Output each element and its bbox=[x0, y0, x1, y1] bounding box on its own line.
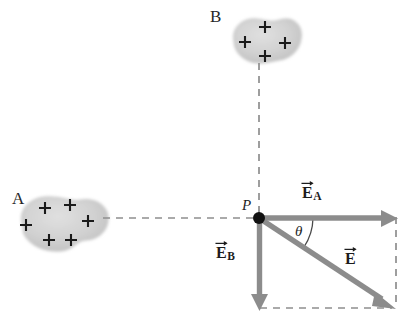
vector-e-resultant-label: E bbox=[345, 251, 356, 269]
vector-e-a-arrow bbox=[259, 210, 398, 227]
point-p-label: P bbox=[242, 198, 251, 213]
vector-e-b-arrow bbox=[251, 218, 268, 311]
electric-field-diagram: A B P E A E B E bbox=[0, 0, 411, 325]
dashed-construction-lines bbox=[103, 63, 396, 308]
vector-arrow-accent-icon bbox=[301, 180, 314, 186]
vector-e-a-base: E bbox=[302, 184, 313, 201]
vector-e-resultant-base: E bbox=[345, 250, 356, 267]
vector-e-a-subscript: A bbox=[313, 190, 321, 202]
vector-e-b-subscript: B bbox=[227, 250, 235, 262]
vector-e-b-symbol: E bbox=[216, 245, 227, 261]
object-a-label: A bbox=[12, 190, 24, 207]
vector-arrow-accent-icon bbox=[344, 246, 357, 252]
vector-e-b-label: E B bbox=[216, 245, 235, 263]
angle-theta-arc bbox=[304, 218, 313, 247]
object-b-label: B bbox=[210, 8, 221, 25]
vector-e-resultant-arrow bbox=[259, 218, 396, 309]
angle-theta-label: θ bbox=[295, 224, 302, 239]
vector-e-a-symbol: E bbox=[302, 185, 313, 201]
vector-e-b-base: E bbox=[216, 244, 227, 261]
point-p-dot bbox=[253, 212, 265, 224]
vector-e-a-label: E A bbox=[302, 185, 321, 203]
vector-e-resultant-symbol: E bbox=[345, 251, 356, 267]
vector-arrow-accent-icon bbox=[215, 240, 228, 246]
diagram-canvas bbox=[0, 0, 411, 325]
